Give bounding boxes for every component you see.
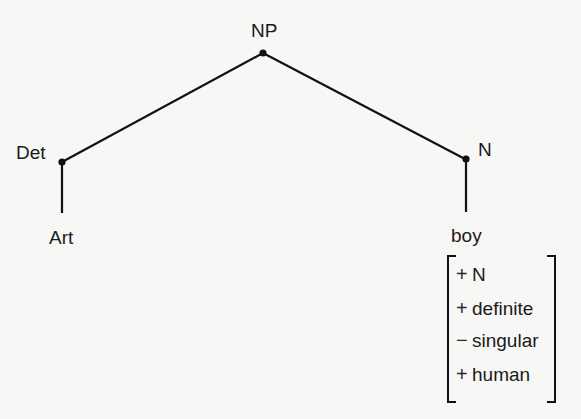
node-label-np: NP [251,21,277,40]
right-bracket [547,256,555,402]
edge-np-det [62,53,263,162]
feature-name: human [472,364,530,385]
feature-sign: + [456,298,472,318]
feature-sign: − [456,330,472,350]
node-dot-n [462,155,469,162]
node-label-art: Art [49,228,73,247]
node-label-det: Det [16,143,46,162]
node-label-n: N [478,140,492,159]
feature-sign: + [456,364,472,384]
feature-row: +N [456,264,486,284]
feature-name: N [472,264,486,285]
tree-diagram: NP Det Art N boy +N +definite −singular … [0,0,581,419]
feature-row: −singular [456,330,539,350]
node-dot-np [259,49,266,56]
feature-name: singular [472,330,539,351]
feature-name: definite [472,298,533,319]
left-bracket [448,256,456,402]
feature-row: +definite [456,298,533,318]
node-dot-det [58,158,65,165]
feature-row: +human [456,364,530,384]
edge-np-n [263,53,465,159]
feature-sign: + [456,264,472,284]
tree-edges [0,0,581,419]
node-label-boy: boy [451,226,482,245]
